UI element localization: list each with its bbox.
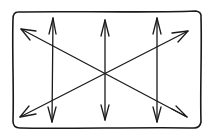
arrowhead-downright-icon	[172, 106, 187, 117]
arrow-vertical-center	[101, 20, 109, 120]
diagram-canvas	[0, 0, 210, 136]
arrow-vertical-left	[48, 18, 56, 122]
arrow-vertical-right	[153, 18, 161, 122]
